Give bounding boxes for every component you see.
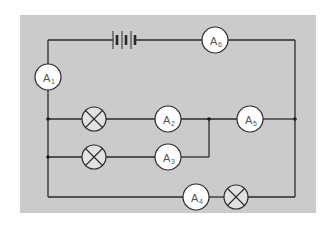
circuit-diagram: A 6 A 1 A 2 A 5 A 3 A 4	[0, 0, 332, 238]
ammeter-subscript: 1	[51, 78, 55, 85]
ammeter-subscript: 2	[171, 120, 175, 127]
ammeter-label: A	[210, 35, 218, 47]
ammeter-subscript: 3	[171, 158, 175, 165]
ammeter-label: A	[43, 72, 51, 84]
ammeter-label: A	[245, 114, 253, 126]
junction-dot	[293, 117, 297, 121]
battery-icon	[113, 31, 135, 49]
ammeter-label: A	[191, 192, 199, 204]
ammeter-subscript: 4	[199, 198, 203, 205]
ammeter-a1: A 1	[35, 64, 61, 90]
junction-dot	[46, 155, 50, 159]
lamp-icon	[82, 107, 106, 131]
ammeter-label: A	[163, 114, 171, 126]
ammeter-subscript: 6	[218, 41, 222, 48]
ammeter-a2: A 2	[155, 106, 181, 132]
lamp-icon	[224, 185, 248, 209]
ammeter-a5: A 5	[237, 106, 263, 132]
ammeter-label: A	[163, 152, 171, 164]
ammeter-subscript: 5	[253, 120, 257, 127]
ammeter-a6: A 6	[202, 27, 228, 53]
junction-dot	[207, 117, 211, 121]
junction-dot	[46, 117, 50, 121]
ammeter-a4: A 4	[183, 184, 209, 210]
ammeter-a3: A 3	[155, 144, 181, 170]
lamp-icon	[82, 145, 106, 169]
